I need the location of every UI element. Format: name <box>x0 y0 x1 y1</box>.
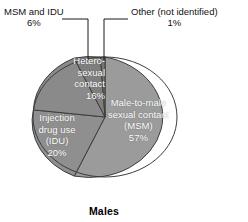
slice-label-msm-line2: sexual contact <box>108 109 169 121</box>
slice-label-idu-line1: Injection <box>18 112 96 124</box>
slice-label-msm-line1: Male-to-male <box>108 97 169 109</box>
slice-label-heterosexual-line3: contact <box>29 78 105 90</box>
slice-label-msm-percent: 57% <box>108 132 169 144</box>
callout-msm-and-idu-percent: 6% <box>4 17 64 28</box>
chart-caption: Males <box>0 205 208 217</box>
slice-label-heterosexual-line2: sexual <box>29 67 105 79</box>
slice-label-idu-line2: drug use <box>18 124 96 136</box>
leader-line-other <box>104 19 128 60</box>
slice-label-idu-percent: 20% <box>18 147 96 159</box>
callout-other-label: Other (not identified) <box>131 6 218 17</box>
slice-label-heterosexual: Hetero- sexual contact 16% <box>29 55 105 101</box>
slice-label-heterosexual-line1: Hetero- <box>29 55 105 67</box>
slice-label-idu-line3: (IDU) <box>18 135 96 147</box>
callout-other: Other (not identified) 1% <box>131 6 218 28</box>
pie-chart-figure: MSM and IDU 6% Other (not identified) 1%… <box>0 0 248 222</box>
slice-label-idu: Injection drug use (IDU) 20% <box>18 112 96 158</box>
slice-label-msm-line3: (MSM) <box>108 120 169 132</box>
slice-label-heterosexual-percent: 16% <box>29 90 105 102</box>
slice-label-msm: Male-to-male sexual contact (MSM) 57% <box>108 97 169 143</box>
callout-msm-and-idu-label: MSM and IDU <box>4 6 64 17</box>
callout-other-percent: 1% <box>131 17 218 28</box>
callout-msm-and-idu: MSM and IDU 6% <box>4 6 64 28</box>
